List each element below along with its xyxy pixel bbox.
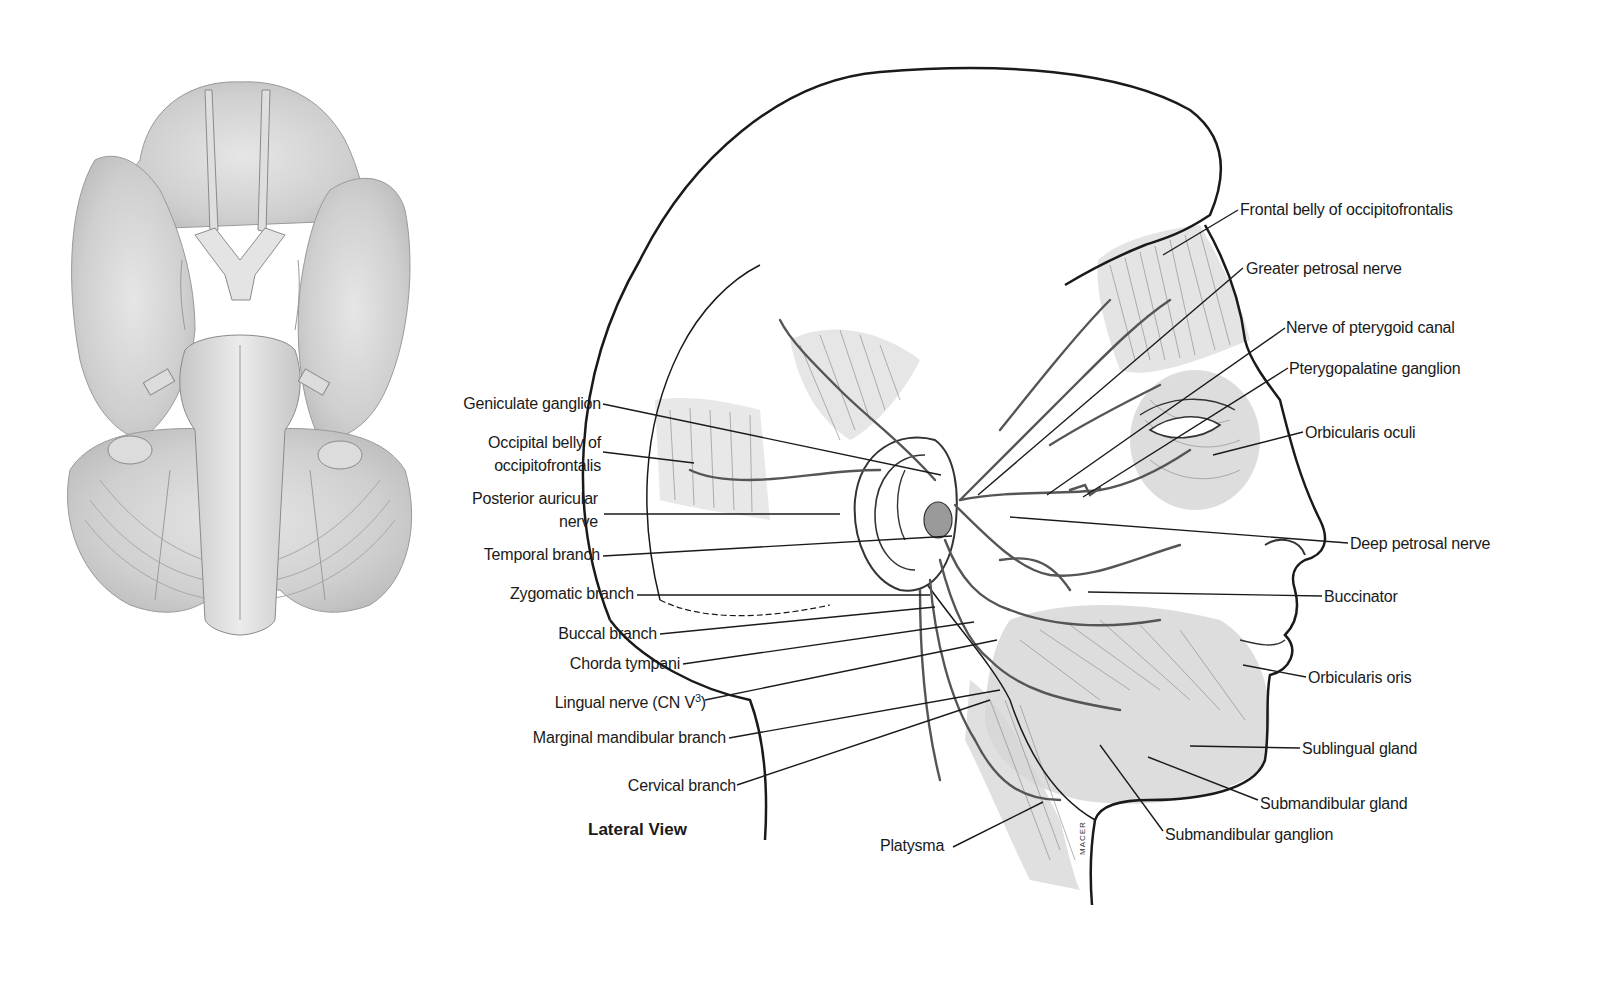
label-frontal-belly: Frontal belly of occipitofrontalis [1240, 200, 1453, 220]
label-submandibular-gland: Submandibular gland [1260, 794, 1407, 814]
artist-signature: MACER [1078, 821, 1087, 855]
label-platysma: Platysma [880, 836, 944, 856]
label-posterior-auricular-line1: Posterior auricular [472, 489, 598, 509]
label-cervical-branch: Cervical branch [628, 776, 736, 796]
label-pterygopalatine-ganglion: Pterygopalatine ganglion [1289, 359, 1460, 379]
label-orbicularis-oris: Orbicularis oris [1308, 668, 1412, 688]
label-deep-petrosal-nerve: Deep petrosal nerve [1350, 534, 1490, 554]
label-marginal-mandibular-branch: Marginal mandibular branch [533, 728, 726, 748]
head-lateral-view-illustration [0, 0, 1599, 998]
label-lingual-nerve-suffix: ) [701, 694, 706, 711]
label-submandibular-ganglion: Submandibular ganglion [1165, 825, 1333, 845]
label-greater-petrosal-nerve: Greater petrosal nerve [1246, 259, 1402, 279]
label-nerve-pterygoid-canal: Nerve of pterygoid canal [1286, 318, 1455, 338]
label-occipital-belly-line1: Occipital belly of [488, 433, 601, 453]
label-geniculate-ganglion: Geniculate ganglion [463, 394, 601, 414]
label-zygomatic-branch: Zygomatic branch [510, 584, 634, 604]
label-occipital-belly-line2: occipitofrontalis [494, 456, 601, 476]
label-lingual-nerve: Lingual nerve (CN V3) [555, 688, 706, 713]
label-chorda-tympani: Chorda tympani [570, 654, 680, 674]
label-buccal-branch: Buccal branch [558, 624, 657, 644]
label-lingual-nerve-text: Lingual nerve (CN V [555, 694, 695, 711]
label-temporal-branch: Temporal branch [484, 545, 600, 565]
label-sublingual-gland: Sublingual gland [1302, 739, 1417, 759]
label-orbicularis-oculi: Orbicularis oculi [1305, 423, 1415, 443]
facial-nerve-figure: Geniculate ganglion Occipital belly of o… [0, 0, 1599, 998]
label-posterior-auricular-line2: nerve [559, 512, 598, 532]
label-buccinator: Buccinator [1324, 587, 1398, 607]
figure-caption: Lateral View [588, 820, 687, 840]
